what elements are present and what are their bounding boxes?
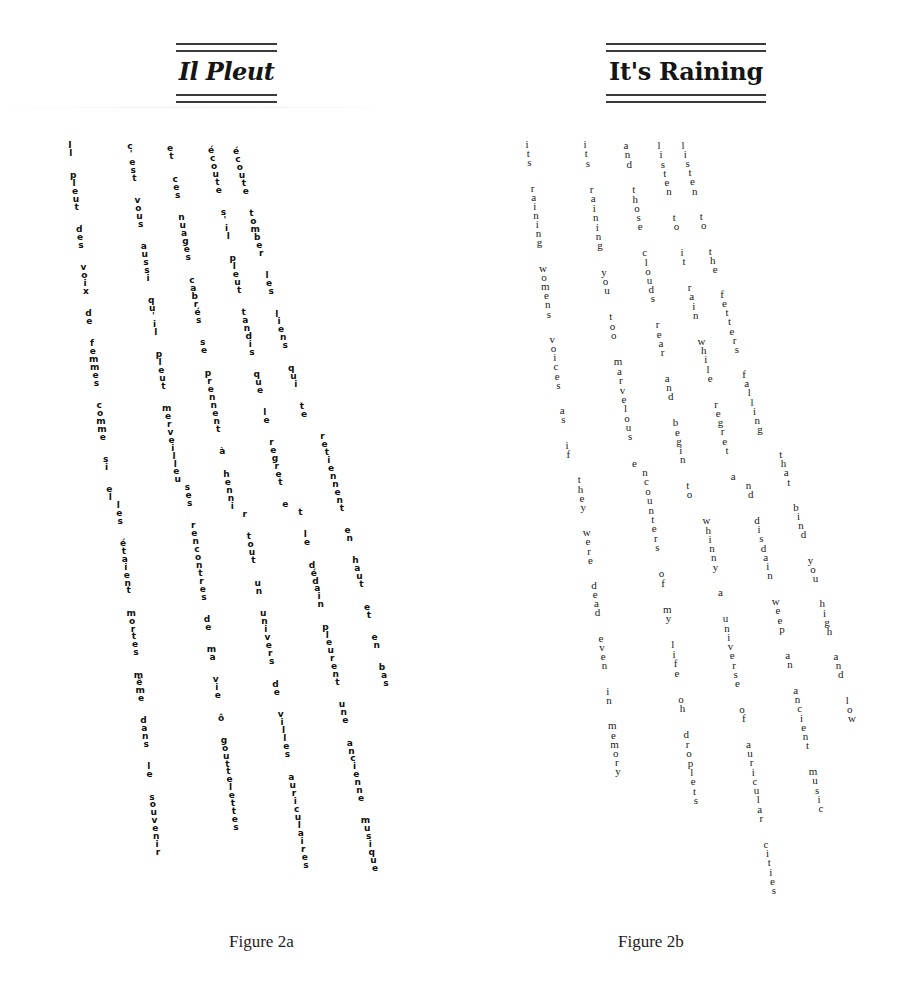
title-top-rules xyxy=(176,43,277,52)
figure-2a-caption: Figure 2a xyxy=(229,932,294,952)
title-bottom-rules xyxy=(606,94,766,103)
rule-line xyxy=(176,101,277,103)
rule-line xyxy=(176,50,277,52)
figure-2a-title-block: Il Pleut xyxy=(176,43,277,103)
rule-line xyxy=(176,43,277,45)
rule-line xyxy=(606,43,766,45)
title-bottom-rules xyxy=(176,94,277,103)
rule-line xyxy=(606,50,766,52)
figure-2b-title: It's Raining xyxy=(609,60,763,84)
figure-2b-panel: It's Raining xyxy=(450,0,900,982)
figure-2a-title: Il Pleut xyxy=(179,60,275,84)
title-top-rules xyxy=(606,43,766,52)
figure-2b-caption: Figure 2b xyxy=(618,932,684,952)
figure-2a-panel: Il Pleut xyxy=(0,0,450,982)
rule-line xyxy=(176,94,277,96)
scan-artifact xyxy=(0,107,370,108)
rule-line xyxy=(606,94,766,96)
figure-2b-title-block: It's Raining xyxy=(606,43,766,103)
rule-line xyxy=(606,101,766,103)
